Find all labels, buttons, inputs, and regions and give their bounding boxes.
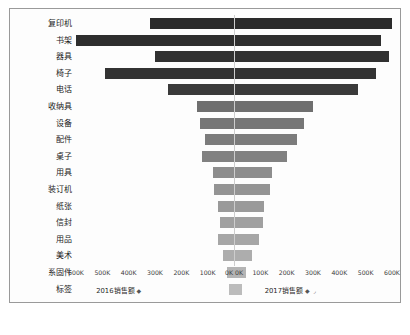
category-label: 纸张 [10, 198, 72, 215]
axis-tick: 600K [68, 269, 84, 276]
category-label: 书架 [10, 32, 72, 49]
category-label: 桌子 [10, 148, 72, 165]
axis-tick: 300K [147, 269, 163, 276]
axis-tick: 300K [305, 269, 321, 276]
axis-tick: 100K [200, 269, 216, 276]
category-label: 收纳具 [10, 98, 72, 115]
axis-tick: 200K [279, 269, 295, 276]
category-label: 配件 [10, 131, 72, 148]
category-label: 电话 [10, 81, 72, 98]
tornado-chart-plot: 复印机书架器具椅子电话收纳具设备配件桌子用具装订机纸张信封用品美术系固件标签 6… [10, 9, 400, 302]
x-axis-tick-labels: 600K500K400K300K200K100K0K 0K100K200K300… [76, 269, 392, 280]
chart-legend: 2016销售额 ◆ 2017销售额 ◆ ◞ [10, 285, 400, 298]
axis-tick: 400K [121, 269, 137, 276]
legend-item-2016[interactable]: 2016销售额 ◆ [96, 285, 142, 295]
category-label: 用具 [10, 164, 72, 181]
category-label: 椅子 [10, 65, 72, 82]
category-label: 设备 [10, 115, 72, 132]
axis-tick: 100K [252, 269, 268, 276]
category-label: 复印机 [10, 15, 72, 32]
chart-frame: 复印机书架器具椅子电话收纳具设备配件桌子用具装订机纸张信封用品美术系固件标签 6… [9, 8, 401, 303]
axis-tick: 200K [173, 269, 189, 276]
axis-tick: 500K [94, 269, 110, 276]
axis-tick: 600K [384, 269, 400, 276]
category-label: 用品 [10, 231, 72, 248]
legend-label-2016: 2016销售额 [96, 285, 134, 295]
category-label: 装订机 [10, 181, 72, 198]
category-label: 器具 [10, 48, 72, 65]
center-axis-line [76, 15, 392, 266]
legend-marker-2016-icon: ◆ [137, 287, 143, 294]
legend-marker-2017-icon: ◆ ◞ [305, 287, 317, 294]
legend-item-2017[interactable]: 2017销售额 ◆ ◞ [265, 285, 317, 295]
axis-tick: 500K [358, 269, 374, 276]
legend-label-2017: 2017销售额 [265, 285, 303, 295]
category-label: 美术 [10, 247, 72, 264]
axis-tick: 0K 0K [225, 269, 243, 276]
axis-tick: 400K [331, 269, 347, 276]
category-label: 信封 [10, 214, 72, 231]
category-label: 系固件 [10, 264, 72, 281]
